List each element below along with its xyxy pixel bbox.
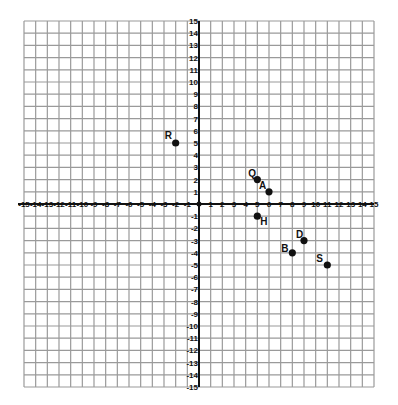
- y-tick-label: -7: [191, 285, 199, 294]
- y-tick-label: 13: [189, 41, 198, 50]
- x-tick-label: -5: [137, 200, 145, 209]
- x-tick-label: 14: [358, 200, 367, 209]
- y-tick-label: 10: [189, 78, 198, 87]
- x-tick-label: -7: [114, 200, 122, 209]
- x-tick-label: -2: [172, 200, 180, 209]
- x-tick-label: 2: [220, 200, 225, 209]
- x-tick-label: 12: [335, 200, 344, 209]
- y-tick-label: -6: [191, 273, 199, 282]
- x-tick-label: -13: [42, 200, 54, 209]
- x-tick-label: 7: [278, 200, 283, 209]
- point-h: H: [254, 213, 268, 228]
- x-tick-label: -1: [184, 200, 192, 209]
- y-tick-label: 14: [189, 29, 198, 38]
- x-tick-label: -10: [77, 200, 89, 209]
- y-tick-label: 3: [194, 163, 199, 172]
- y-tick-label: 7: [194, 115, 199, 124]
- x-tick-label: -4: [149, 200, 157, 209]
- x-tick-label: -12: [53, 200, 65, 209]
- x-tick-label: 11: [323, 200, 332, 209]
- x-tick-label: 15: [370, 200, 379, 209]
- point-s: S: [316, 253, 331, 269]
- x-tick-label: 4: [243, 200, 248, 209]
- y-tick-label: 5: [194, 139, 199, 148]
- point-label: R: [165, 130, 173, 141]
- y-tick-label: -15: [186, 383, 198, 392]
- point-label: Q: [248, 168, 256, 179]
- y-tick-label: 11: [190, 66, 199, 75]
- y-tick-label: -10: [186, 322, 198, 331]
- x-tick-label: -8: [102, 200, 110, 209]
- x-tick-label: 5: [255, 200, 260, 209]
- point-a: A: [259, 180, 273, 196]
- y-tick-label: -13: [186, 359, 198, 368]
- point-marker: [172, 139, 179, 146]
- x-tick-label: 8: [290, 200, 295, 209]
- y-tick-label: -5: [191, 261, 199, 270]
- x-tick-label: -11: [65, 200, 77, 209]
- point-r: R: [165, 130, 180, 147]
- y-tick-label: -14: [186, 371, 198, 380]
- y-tick-label: 8: [194, 102, 199, 111]
- point-label: S: [316, 253, 323, 264]
- point-marker: [324, 261, 331, 268]
- x-tick-label: 1: [208, 200, 213, 209]
- point-label: A: [259, 180, 266, 191]
- y-tick-label: 12: [189, 54, 198, 63]
- y-tick-label: 6: [194, 127, 199, 136]
- point-d: D: [296, 229, 308, 245]
- x-tick-label: 13: [346, 200, 355, 209]
- point-label: B: [281, 243, 288, 254]
- y-tick-label: 4: [194, 151, 199, 160]
- point-marker: [265, 188, 272, 195]
- y-tick-label: -12: [186, 346, 198, 355]
- x-tick-label: 6: [267, 200, 272, 209]
- y-tick-label: -11: [187, 334, 199, 343]
- y-tick-label: -4: [191, 249, 199, 258]
- y-tick-label: 15: [189, 17, 198, 26]
- x-tick-label: -9: [90, 200, 98, 209]
- point-marker: [289, 249, 296, 256]
- y-tick-label: -8: [191, 298, 199, 307]
- point-label: D: [296, 229, 303, 240]
- point-label: H: [260, 216, 267, 227]
- y-tick-label: 9: [194, 90, 199, 99]
- origin-marker: [197, 202, 202, 207]
- x-tick-label: -3: [160, 200, 168, 209]
- x-tick-label: 10: [311, 200, 320, 209]
- point-b: B: [281, 243, 296, 257]
- x-tick-label: -15: [18, 200, 30, 209]
- y-tick-label: -9: [191, 310, 199, 319]
- y-tick-label: -2: [191, 224, 199, 233]
- x-tick-label: -6: [125, 200, 133, 209]
- x-tick-label: 3: [232, 200, 237, 209]
- y-tick-label: -3: [191, 237, 199, 246]
- y-tick-label: -1: [191, 212, 199, 221]
- y-tick-label: 2: [194, 176, 199, 185]
- x-tick-label: 9: [302, 200, 307, 209]
- y-tick-label: 1: [194, 188, 199, 197]
- coordinate-plane: -15-14-13-12-11-10-9-8-7-6-5-4-3-2-11234…: [0, 0, 398, 405]
- x-tick-label: -14: [30, 200, 42, 209]
